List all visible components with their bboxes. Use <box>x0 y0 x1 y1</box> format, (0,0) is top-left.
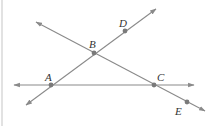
point-c <box>152 83 157 88</box>
label-e: E <box>174 105 182 117</box>
left-edge-border <box>1 0 3 126</box>
labels-layer: ABCDE <box>44 17 182 117</box>
line-AD <box>26 9 156 105</box>
lines-layer <box>14 9 205 111</box>
point-e <box>185 100 190 105</box>
geometry-diagram: ABCDE <box>0 0 216 126</box>
label-a: A <box>44 71 52 83</box>
label-b: B <box>89 38 96 50</box>
label-c: C <box>157 71 165 83</box>
point-a <box>49 83 54 88</box>
point-b <box>92 51 97 56</box>
label-d: D <box>118 17 127 29</box>
point-d <box>123 29 128 34</box>
